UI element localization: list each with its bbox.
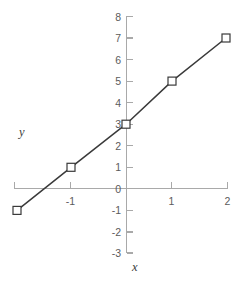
y-tick-label: 5 [99, 76, 121, 87]
data-point-marker [222, 34, 230, 42]
data-point-marker [67, 163, 75, 171]
y-tick-label: 0 [99, 184, 121, 195]
y-tick-label: -1 [99, 205, 121, 216]
y-axis [127, 16, 133, 253]
data-point-marker [122, 120, 130, 128]
x-tick-label: 1 [169, 196, 175, 207]
y-tick-label: -3 [99, 248, 121, 259]
x-tick-label: -1 [66, 196, 75, 207]
y-axis-title: y [19, 126, 25, 139]
x-tick-label: 2 [225, 196, 231, 207]
data-point-marker [13, 206, 21, 214]
y-tick-label: 1 [99, 162, 121, 173]
data-point-marker [168, 77, 176, 85]
chart-plot-area [0, 0, 247, 282]
y-tick-label: -2 [99, 227, 121, 238]
y-tick-label: 8 [99, 11, 121, 22]
y-tick-label: 4 [99, 97, 121, 108]
y-tick-label: 6 [99, 54, 121, 65]
y-tick-label: 7 [99, 33, 121, 44]
y-tick-label: 2 [99, 141, 121, 152]
line-chart: 8 7 6 5 4 3 2 1 0 -1 -2 -3 -1 1 2 y x [0, 0, 247, 282]
x-axis-title: x [132, 261, 138, 274]
y-tick-label: 3 [99, 119, 121, 130]
